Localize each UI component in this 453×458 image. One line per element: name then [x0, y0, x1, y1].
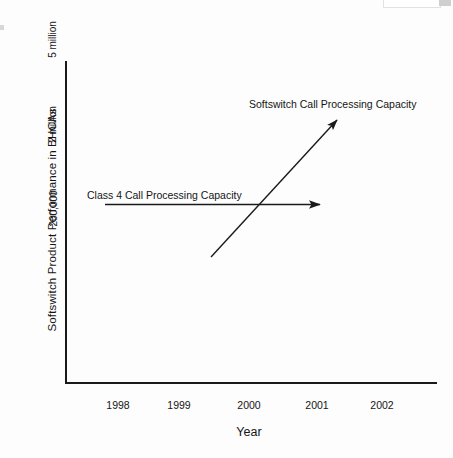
series-label-softswitch: Softswitch Call Processing Capacity [249, 98, 416, 110]
series-label-class-4: Class 4 Call Processing Capacity [87, 189, 242, 201]
chart-page: Softswitch Product Performance in BHCAs … [0, 0, 453, 458]
series-arrows [0, 0, 453, 458]
